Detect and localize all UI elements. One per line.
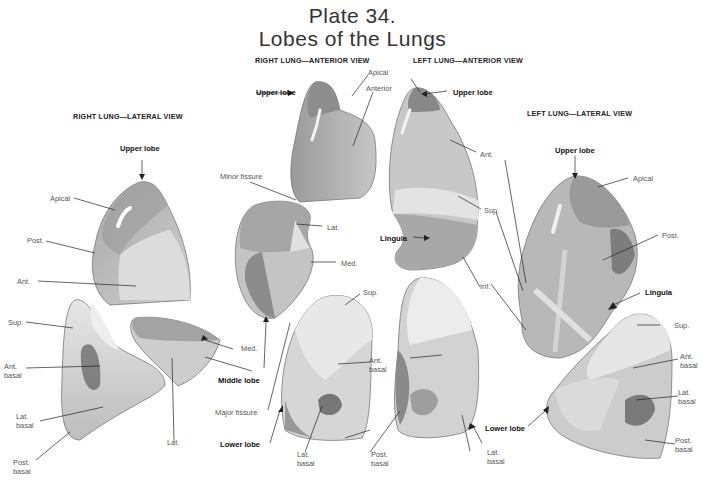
label-ll-upper-lobe: Upper lobe <box>555 146 595 155</box>
label-ra-lat-basal: Lat. basal <box>297 450 315 468</box>
label-ra-major-fissure: Major fissure <box>215 408 257 417</box>
label-rl-ant: Ant. <box>17 277 30 286</box>
left-anterior-lower-lobe <box>395 278 479 438</box>
label-la-ant: Ant. <box>480 150 493 159</box>
label-la-upper-lobe: Upper lobe <box>453 88 493 97</box>
label-ra-upper-lobe: Upper lobe <box>256 88 296 97</box>
label-rl-post-basal: Post. basal <box>13 458 31 476</box>
lung-illustration <box>0 0 705 482</box>
label-rl-med: Med. <box>241 344 257 353</box>
label-ll-lingula: Lingula <box>645 288 672 297</box>
label-ll-sup: Sup. <box>674 321 689 330</box>
label-ll-post-basal: Post. basal <box>675 436 693 454</box>
right-anterior-middle-lobe <box>235 201 313 318</box>
label-ra-lower-lobe: Lower lobe <box>220 440 260 449</box>
view-left-lateral: LEFT LUNG—LATERAL VIEW <box>527 109 632 118</box>
label-rl-apical: Apical <box>50 194 70 203</box>
label-ll-ant-basal: Ant. basal <box>680 352 698 370</box>
label-ra-middle-lobe: Middle lobe <box>218 376 260 385</box>
view-right-anterior: RIGHT LUNG—ANTERIOR VIEW <box>255 56 370 65</box>
label-la-lower-lobe: Lower lobe <box>485 424 525 433</box>
label-ra-sup: Sup. <box>363 288 378 297</box>
label-la-inf: Inf. <box>480 282 490 291</box>
label-la-sup: Sup. <box>484 206 499 215</box>
label-la-lat-basal: Lat. basal <box>487 448 505 466</box>
label-la-lingula: Lingula <box>380 234 407 243</box>
right-lateral-upper-lobe <box>92 182 190 305</box>
label-ra-med: Med. <box>341 259 357 268</box>
label-ll-lat-basal: Lat. basal <box>678 388 696 406</box>
label-ll-apical: Apical <box>633 174 653 183</box>
view-right-lateral: RIGHT LUNG—LATERAL VIEW <box>73 112 183 121</box>
right-anterior-lower-lobe <box>282 295 373 440</box>
label-ra-anterior: Anterior <box>366 84 392 93</box>
label-ra-post-basal: Post. basal <box>371 450 389 468</box>
label-ll-post: Post. <box>662 231 679 240</box>
label-ra-ant-basal: Ant. basal <box>369 356 387 374</box>
right-anterior-upper-lobe <box>291 82 376 202</box>
label-rl-lat: Lat. <box>167 438 179 447</box>
label-ra-lat: Lat. <box>327 223 339 232</box>
label-rl-ant-basal: Ant. basal <box>4 362 22 380</box>
label-ra-minor-fissure: Minor fissure <box>220 172 262 181</box>
view-left-anterior: LEFT LUNG—ANTERIOR VIEW <box>413 56 523 65</box>
label-ra-apical: Apical <box>368 68 388 77</box>
label-rl-upper-lobe: Upper lobe <box>120 144 160 153</box>
label-rl-sup: Sup. <box>8 318 23 327</box>
label-rl-lat-basal: Lat. basal <box>16 412 34 430</box>
label-rl-post: Post. <box>27 236 44 245</box>
